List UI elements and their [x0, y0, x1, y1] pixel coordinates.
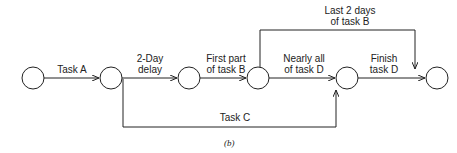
node-2 [100, 67, 122, 89]
node-6 [426, 67, 448, 89]
label-last-b: Last 2 daysof task B [320, 5, 380, 27]
label-finish-d: Finishtask D [362, 53, 406, 75]
node-5 [336, 67, 358, 89]
node-1 [22, 67, 44, 89]
label-task-c: Task C [215, 112, 255, 123]
network-diagram [0, 0, 457, 153]
label-first-b: First partof task B [201, 53, 251, 75]
label-task-a: Task A [52, 64, 92, 75]
node-3 [178, 67, 200, 89]
label-nearly-d: Nearly allof task D [279, 53, 329, 75]
label-delay: 2-Daydelay [128, 53, 172, 75]
figure-caption: (b) [224, 138, 235, 148]
